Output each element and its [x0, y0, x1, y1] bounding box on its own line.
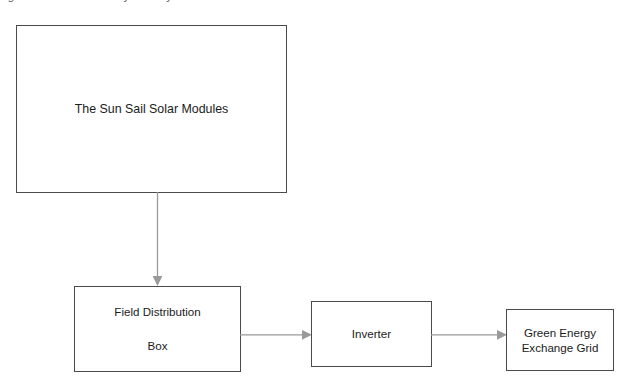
- connector-inverter-to-green-energy-grid: [431, 328, 509, 342]
- connector-solar-to-field-distribution-box: [148, 192, 168, 288]
- node-inverter-label: Inverter: [352, 326, 391, 342]
- node-solar-modules[interactable]: The Sun Sail Solar Modules: [16, 25, 287, 193]
- diagram-canvas: figure: overview of the system layout Th…: [0, 0, 633, 392]
- node-inverter[interactable]: Inverter: [311, 301, 432, 367]
- node-green-energy-exchange-grid[interactable]: Green Energy Exchange Grid: [506, 309, 614, 371]
- connector-field-distribution-box-to-inverter: [240, 328, 314, 342]
- node-green-energy-grid-label-line2: Exchange Grid: [522, 340, 599, 356]
- node-field-distribution-box-label-line1: Field Distribution: [114, 304, 200, 320]
- node-green-energy-grid-label-line1: Green Energy: [524, 325, 596, 341]
- clipped-caption-text: figure: overview of the system layout: [0, 0, 633, 4]
- node-field-distribution-box[interactable]: Field Distribution Box: [74, 286, 241, 372]
- clipped-caption: figure: overview of the system layout: [0, 0, 633, 4]
- node-solar-modules-label: The Sun Sail Solar Modules: [75, 101, 229, 118]
- node-field-distribution-box-label-line2: Box: [148, 338, 168, 354]
